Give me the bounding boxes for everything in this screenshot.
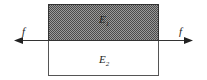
left-arrowhead-icon — [14, 37, 23, 44]
label-right-force: f — [179, 26, 182, 37]
right-arrowhead-icon — [184, 37, 193, 44]
label-e1: E1 — [99, 14, 109, 28]
label-left-force: f — [22, 26, 25, 37]
label-e2: E2 — [99, 54, 109, 68]
